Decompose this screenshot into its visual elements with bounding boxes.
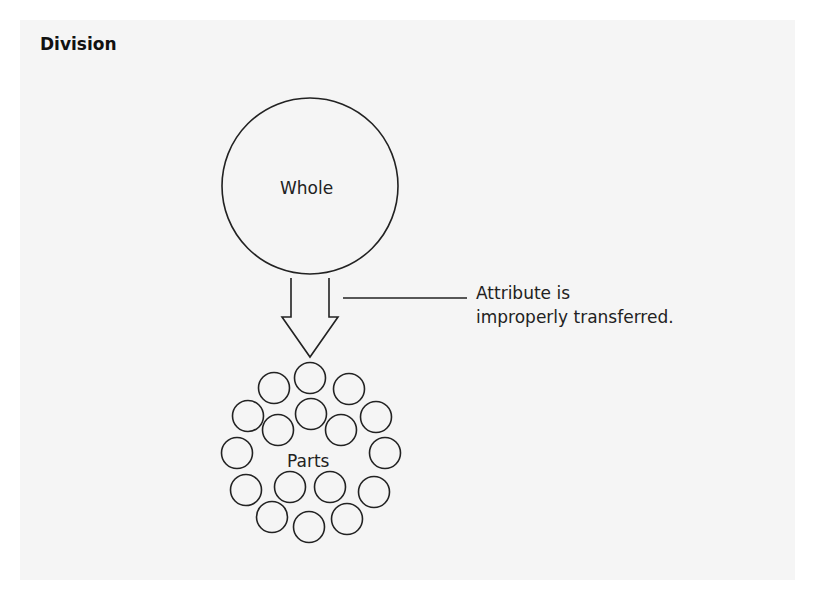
part-circle — [361, 402, 392, 433]
part-circle — [332, 504, 363, 535]
part-circle — [259, 373, 290, 404]
part-circle — [359, 477, 390, 508]
diagram-page: Division Whole Parts Attribute is improp… — [0, 0, 814, 599]
annotation-line-2: improperly transferred. — [476, 305, 674, 329]
part-circle — [296, 399, 327, 430]
down-arrow — [282, 278, 338, 357]
part-circle — [275, 472, 306, 503]
part-circle — [294, 512, 325, 543]
part-circle — [257, 502, 288, 533]
part-circle — [334, 374, 365, 405]
whole-label: Whole — [280, 178, 333, 198]
part-circle — [295, 363, 326, 394]
part-circle — [222, 438, 253, 469]
part-circle — [263, 415, 294, 446]
part-circle — [370, 438, 401, 469]
part-circle — [315, 472, 346, 503]
annotation-line-1: Attribute is — [476, 281, 674, 305]
diagram-graphics — [0, 0, 814, 599]
parts-label: Parts — [287, 451, 329, 471]
annotation-text: Attribute is improperly transferred. — [476, 281, 674, 329]
part-circle — [233, 401, 264, 432]
diagram-title: Division — [40, 34, 117, 54]
part-circle — [231, 475, 262, 506]
part-circle — [326, 415, 357, 446]
